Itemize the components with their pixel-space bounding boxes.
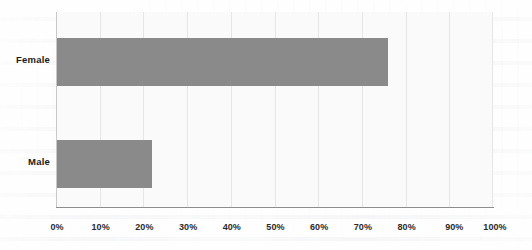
bar-female xyxy=(56,38,388,86)
x-tick-label-20: 20% xyxy=(124,222,164,232)
x-axis-line xyxy=(56,207,494,208)
gridline-80 xyxy=(406,12,407,208)
x-tick-label-90: 90% xyxy=(434,222,474,232)
x-tick-label-40: 40% xyxy=(212,222,252,232)
x-tick-label-0: 0% xyxy=(37,222,77,232)
bar-chart: Female Male 0% 10% 20% 30% 40% 50% 60% 7… xyxy=(0,0,532,250)
category-label-male: Male xyxy=(0,156,50,167)
plot-area xyxy=(56,12,493,208)
bar-male xyxy=(56,140,152,188)
gridline-100 xyxy=(492,12,493,208)
x-tick-label-60: 60% xyxy=(299,222,339,232)
y-axis-line xyxy=(56,12,57,208)
x-tick-label-100: 100% xyxy=(475,222,515,232)
x-tick-label-50: 50% xyxy=(256,222,296,232)
gridline-90 xyxy=(449,12,450,208)
x-tick-label-70: 70% xyxy=(343,222,383,232)
x-tick-label-30: 30% xyxy=(168,222,208,232)
x-tick-label-80: 80% xyxy=(387,222,427,232)
x-tick-label-10: 10% xyxy=(81,222,121,232)
category-label-female: Female xyxy=(0,54,50,65)
